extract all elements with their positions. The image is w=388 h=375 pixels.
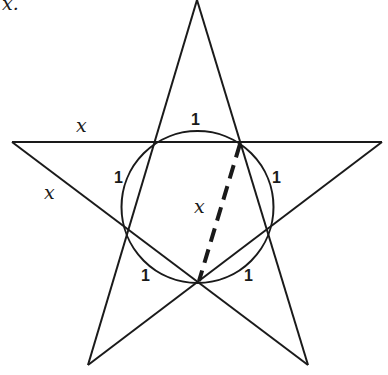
pentagram (12, 0, 382, 365)
label-left-edge: x (44, 181, 55, 203)
star-edge-left-diagonal (88, 0, 197, 365)
label-arc-bottom-left: 1 (141, 267, 150, 284)
star-diagram: x. x x 1 1 1 x 1 1 (0, 0, 388, 375)
caption-fragment: x. (2, 0, 19, 14)
label-diagonal: x (194, 195, 205, 217)
label-top-left-edge: x (76, 114, 87, 136)
star-edge-right-diagonal (197, 0, 308, 365)
label-arc-bottom-right: 1 (244, 267, 253, 284)
label-arc-top: 1 (191, 111, 200, 128)
label-arc-left: 1 (114, 169, 123, 186)
dashed-diagonal (199, 144, 240, 281)
star-edge-left-to-bottom-right (12, 142, 308, 365)
star-edge-right-to-bottom-left (88, 142, 382, 365)
label-arc-right: 1 (272, 169, 281, 186)
